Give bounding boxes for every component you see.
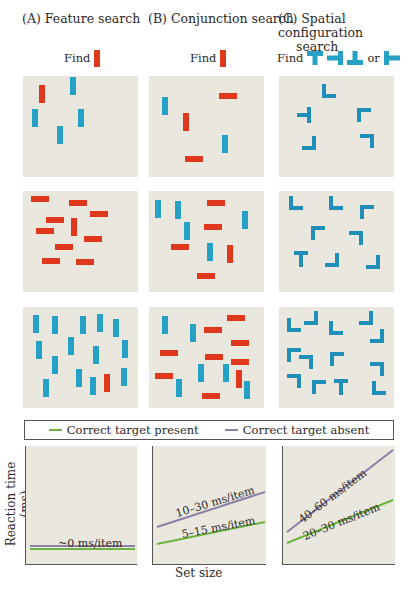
blue-vertical-bar <box>190 324 196 342</box>
blue-vertical-bar <box>244 381 250 399</box>
red-horizontal-bar <box>36 228 54 234</box>
red-horizontal-bar <box>197 273 215 279</box>
blue-vertical-bar <box>70 77 76 95</box>
t-left-icon <box>327 51 343 65</box>
red-horizontal-bar <box>231 340 249 346</box>
t-down-icon <box>347 51 363 65</box>
red-horizontal-bar <box>219 93 237 99</box>
t-right-icon <box>384 51 400 65</box>
target-red-vertical-bar-icon <box>220 50 226 67</box>
conjunction-search-panel-3 <box>149 307 264 408</box>
red-horizontal-bar <box>76 259 94 265</box>
feature-search-panel-2 <box>23 191 138 292</box>
blue-vertical-bar <box>162 97 168 115</box>
legend-item-present: Correct target present <box>49 423 199 437</box>
blue-vertical-bar <box>90 377 96 395</box>
blue-vertical-bar <box>242 211 248 229</box>
blue-vertical-bar <box>76 369 82 387</box>
red-vertical-bar-target <box>71 218 77 236</box>
feature-search-panel-1 <box>23 76 138 177</box>
column-title-spatial-configuration-search: (C) Spatial configuration search <box>278 12 417 54</box>
blue-vertical-bar <box>52 356 58 374</box>
green-line-swatch-icon <box>49 429 62 431</box>
blue-vertical-bar <box>121 368 127 386</box>
red-horizontal-bar <box>84 236 102 242</box>
red-horizontal-bar <box>231 359 249 365</box>
red-vertical-bar-target <box>183 113 189 131</box>
spatial-configuration-panel-1 <box>279 76 394 177</box>
blue-vertical-bar <box>122 340 128 358</box>
blue-vertical-bar <box>43 379 49 397</box>
blue-vertical-bar <box>36 341 42 359</box>
spatial-configuration-panel-2 <box>279 191 394 292</box>
title-line-1: (C) Spatial configuration <box>278 12 417 40</box>
blue-vertical-bar <box>93 346 99 364</box>
blue-vertical-bar <box>222 135 228 153</box>
red-vertical-bar-target <box>236 370 242 388</box>
blue-vertical-bar <box>207 243 213 261</box>
red-horizontal-bar <box>160 350 178 356</box>
blue-vertical-bar <box>68 337 74 355</box>
legend-label-present: Correct target present <box>67 423 199 437</box>
spatial-configuration-panel-3 <box>279 307 394 408</box>
red-vertical-bar <box>39 85 45 103</box>
find-target-a: Find <box>64 50 100 66</box>
red-vertical-bar-target <box>227 245 233 263</box>
l-and-t-shapes <box>279 76 394 177</box>
chart-legend: Correct target present Correct target ab… <box>24 420 394 440</box>
blue-vertical-bar <box>175 201 181 219</box>
red-horizontal-bar <box>42 258 60 264</box>
or-label: or <box>367 51 379 65</box>
blue-vertical-bar <box>32 109 38 127</box>
red-horizontal-bar <box>69 200 87 206</box>
blue-vertical-bar <box>176 379 182 397</box>
red-horizontal-bar <box>171 244 189 250</box>
blue-vertical-bar <box>113 319 119 337</box>
feature-search-panel-3 <box>23 307 138 408</box>
red-horizontal-bar <box>90 211 108 217</box>
find-target-c: Find or <box>277 50 400 66</box>
blue-vertical-bar <box>78 109 84 127</box>
blue-vertical-bar <box>57 126 63 144</box>
find-label: Find <box>190 51 216 65</box>
red-horizontal-bar <box>204 224 222 230</box>
red-vertical-bar-target <box>104 374 110 392</box>
find-target-b: Find <box>190 50 226 66</box>
blue-vertical-bar <box>33 315 39 333</box>
red-horizontal-bar <box>207 200 225 206</box>
blue-vertical-bar <box>80 316 86 334</box>
red-horizontal-bar <box>205 354 223 360</box>
blue-vertical-bar <box>52 316 58 334</box>
blue-vertical-bar <box>155 200 161 218</box>
l-and-t-shapes <box>279 191 394 292</box>
column-title-feature-search: (A) Feature search <box>22 12 140 26</box>
purple-line-swatch-icon <box>225 429 238 431</box>
red-horizontal-bar <box>155 373 173 379</box>
blue-vertical-bar <box>162 316 168 334</box>
red-horizontal-bar <box>202 393 220 399</box>
legend-label-absent: Correct target absent <box>243 423 370 437</box>
l-and-t-shapes <box>279 307 394 408</box>
red-horizontal-bar <box>31 196 49 202</box>
target-red-vertical-bar-icon <box>94 50 100 67</box>
blue-vertical-bar <box>223 364 229 382</box>
red-horizontal-bar <box>46 217 64 223</box>
legend-item-absent: Correct target absent <box>225 423 370 437</box>
find-label: Find <box>277 51 303 65</box>
red-horizontal-bar <box>55 244 73 250</box>
blue-vertical-bar <box>198 364 204 382</box>
x-axis-label: Set size <box>175 566 222 580</box>
find-label: Find <box>64 51 90 65</box>
blue-vertical-bar <box>97 314 103 332</box>
red-horizontal-bar <box>227 315 245 321</box>
red-horizontal-bar <box>204 327 222 333</box>
t-up-icon <box>307 51 323 65</box>
slope-label-feature: ~0 ms/item <box>58 537 122 550</box>
column-title-conjunction-search: (B) Conjunction search <box>148 12 294 26</box>
conjunction-search-panel-1 <box>149 76 264 177</box>
blue-vertical-bar <box>184 222 190 240</box>
red-horizontal-bar <box>185 156 203 162</box>
conjunction-search-panel-2 <box>149 191 264 292</box>
